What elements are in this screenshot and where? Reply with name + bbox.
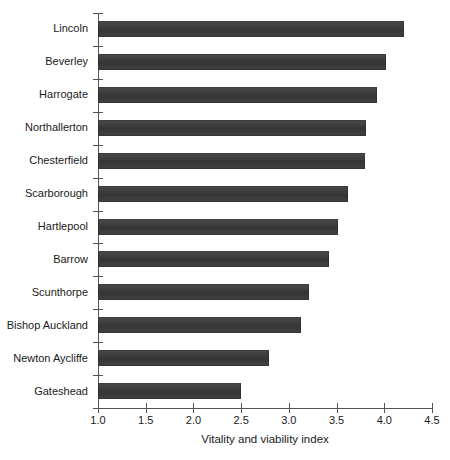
x-axis-tick-label: 1.5 [126, 414, 166, 427]
y-axis-category-label: Chesterfield [0, 154, 88, 167]
bar-row [98, 79, 432, 112]
y-axis-category-label: Barrow [0, 253, 88, 266]
bar[interactable] [98, 87, 377, 103]
x-axis-tick [432, 403, 433, 413]
plot-area [98, 13, 432, 408]
y-axis-category-label: Scunthorpe [0, 286, 88, 299]
x-axis-tick-label: 4.5 [412, 414, 450, 427]
bar[interactable] [98, 153, 365, 169]
y-axis-category-label: Hartlepool [0, 220, 88, 233]
x-axis-tick-label: 1.0 [78, 414, 118, 427]
bar-row [98, 243, 432, 276]
bar-row [98, 13, 432, 46]
bar[interactable] [98, 350, 269, 366]
bar-row [98, 211, 432, 244]
bar-row [98, 375, 432, 408]
bar[interactable] [98, 251, 329, 267]
bar[interactable] [98, 219, 338, 235]
y-axis-category-label: Harrogate [0, 88, 88, 101]
x-axis-tick-label: 3.5 [317, 414, 357, 427]
bar[interactable] [98, 383, 241, 399]
bar[interactable] [98, 186, 348, 202]
bar-row [98, 112, 432, 145]
y-axis-category-label: Northallerton [0, 121, 88, 134]
bar[interactable] [98, 54, 386, 70]
y-axis-category-label: Bishop Auckland [0, 319, 88, 332]
bar[interactable] [98, 317, 301, 333]
bar-chart: 1.01.52.02.53.03.54.04.5 LincolnBeverley… [0, 0, 450, 460]
y-axis-category-label: Lincoln [0, 22, 88, 35]
x-axis-title: Vitality and viability index [98, 432, 432, 446]
x-axis-tick-label: 3.0 [269, 414, 309, 427]
bar-row [98, 46, 432, 79]
bar-row [98, 276, 432, 309]
bar-row [98, 145, 432, 178]
y-axis-category-label: Newton Aycliffe [0, 352, 88, 365]
bar[interactable] [98, 21, 404, 37]
y-axis-category-label: Beverley [0, 55, 88, 68]
x-axis-tick-label: 2.0 [173, 414, 213, 427]
y-axis-category-label: Gateshead [0, 385, 88, 398]
bar-row [98, 178, 432, 211]
x-axis-tick-label: 4.0 [364, 414, 404, 427]
y-axis-category-label: Scarborough [0, 187, 88, 200]
bar[interactable] [98, 284, 309, 300]
x-axis-line [98, 408, 432, 409]
bar[interactable] [98, 120, 366, 136]
x-axis-tick-label: 2.5 [221, 414, 261, 427]
bar-row [98, 309, 432, 342]
bar-row [98, 342, 432, 375]
